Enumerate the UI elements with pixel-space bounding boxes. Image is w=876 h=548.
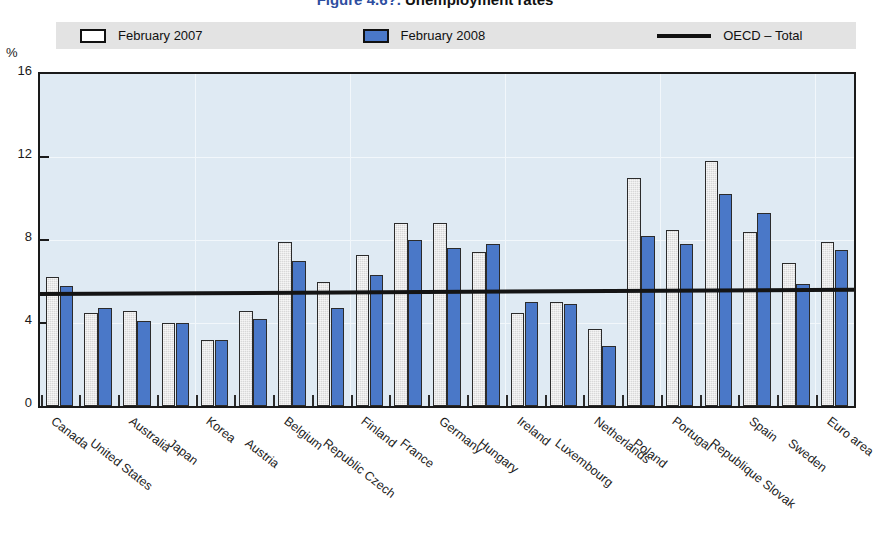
bar-february-2008 bbox=[680, 244, 694, 406]
bar-february-2008 bbox=[719, 194, 733, 406]
gridline-vertical bbox=[195, 74, 196, 406]
bar-february-2008 bbox=[370, 275, 384, 406]
legend-label: February 2007 bbox=[118, 28, 203, 43]
bar-february-2008 bbox=[292, 261, 306, 406]
plot-area bbox=[38, 72, 856, 408]
x-axis-label-2: Australia bbox=[126, 414, 173, 455]
bar-february-2007 bbox=[511, 313, 525, 406]
bar-february-2007 bbox=[743, 232, 757, 406]
bar-february-2007 bbox=[239, 311, 253, 406]
legend-swatch-blue bbox=[363, 29, 389, 43]
y-axis-tick bbox=[40, 156, 49, 158]
bar-february-2007 bbox=[782, 263, 796, 406]
gridline-vertical bbox=[505, 74, 506, 406]
x-axis-label-1: United States bbox=[88, 436, 156, 493]
x-axis-tick bbox=[700, 395, 702, 406]
x-axis-tick bbox=[738, 395, 740, 406]
figure-title-text: Unemployment rates bbox=[405, 0, 553, 8]
x-axis-label-20: Euro area bbox=[824, 414, 876, 459]
bar-february-2007 bbox=[588, 329, 602, 406]
bar-february-2007 bbox=[162, 323, 176, 406]
x-axis-tick bbox=[118, 395, 120, 406]
y-axis-tick-label: 8 bbox=[2, 229, 32, 244]
x-axis-tick bbox=[234, 395, 236, 406]
x-axis-label-13: Luxembourg bbox=[553, 436, 616, 490]
y-axis-tick-label: 0 bbox=[2, 395, 32, 410]
gridline-vertical bbox=[350, 74, 351, 406]
x-axis-label-8: Finland bbox=[359, 414, 400, 450]
legend-label: OECD – Total bbox=[723, 28, 802, 43]
x-axis-label-4: Korea bbox=[204, 414, 239, 446]
bar-february-2007 bbox=[84, 313, 98, 406]
bar-february-2008 bbox=[447, 248, 461, 406]
figure-number: Figure 4.6?. bbox=[317, 0, 401, 8]
x-axis-label-10: Germany bbox=[436, 414, 485, 457]
bar-february-2008 bbox=[757, 213, 771, 406]
gridline-horizontal bbox=[40, 157, 854, 158]
legend-swatch-white bbox=[80, 29, 106, 43]
x-axis-tick bbox=[661, 395, 663, 406]
bar-february-2008 bbox=[137, 321, 151, 406]
x-axis-tick bbox=[79, 395, 81, 406]
bar-february-2008 bbox=[486, 244, 500, 406]
x-axis-tick bbox=[389, 395, 391, 406]
x-axis-tick bbox=[351, 395, 353, 406]
x-axis-label-9: France bbox=[398, 436, 437, 471]
legend-line-marker bbox=[657, 34, 711, 38]
bar-february-2008 bbox=[641, 236, 655, 406]
x-axis-tick bbox=[312, 395, 314, 406]
y-axis-tick-label: 4 bbox=[2, 312, 32, 327]
bar-february-2007 bbox=[317, 282, 331, 407]
bar-february-2007 bbox=[46, 277, 60, 406]
x-axis-tick bbox=[428, 395, 430, 406]
bar-february-2008 bbox=[602, 346, 616, 406]
x-axis-tick bbox=[273, 395, 275, 406]
bar-february-2008 bbox=[253, 319, 267, 406]
x-axis-tick bbox=[41, 395, 43, 406]
x-axis-tick bbox=[816, 395, 818, 406]
legend-label: February 2008 bbox=[401, 28, 486, 43]
x-axis-label-11: Hungary bbox=[475, 436, 521, 476]
chart-legend: February 2007February 2008OECD – Total bbox=[56, 22, 856, 49]
x-axis-label-12: Ireland bbox=[514, 414, 553, 449]
x-axis-label-5: Austria bbox=[243, 436, 282, 471]
bar-february-2008 bbox=[835, 250, 849, 406]
x-axis-labels: CanadaUnited StatesAustraliaJapanKoreaAu… bbox=[38, 408, 856, 548]
bar-february-2008 bbox=[98, 308, 112, 406]
x-axis-tick bbox=[545, 395, 547, 406]
bar-february-2007 bbox=[550, 302, 564, 406]
x-axis-tick bbox=[777, 395, 779, 406]
bar-february-2007 bbox=[472, 252, 486, 406]
legend-item-1: February 2008 bbox=[363, 28, 486, 43]
bar-february-2007 bbox=[666, 230, 680, 406]
bar-february-2008 bbox=[796, 284, 810, 406]
bar-february-2008 bbox=[331, 308, 345, 406]
x-axis-tick bbox=[583, 395, 585, 406]
x-axis-tick bbox=[196, 395, 198, 406]
figure-title: Figure 4.6?. Unemployment rates bbox=[0, 0, 870, 8]
bar-february-2008 bbox=[176, 323, 190, 406]
gridline-vertical bbox=[660, 74, 661, 406]
bar-february-2007 bbox=[278, 242, 292, 406]
x-axis-label-0: Canada bbox=[49, 414, 92, 452]
bar-february-2008 bbox=[564, 304, 578, 406]
bar-february-2007 bbox=[123, 311, 137, 406]
bar-february-2008 bbox=[215, 340, 229, 406]
x-axis-label-6: Belgium bbox=[281, 414, 325, 453]
bar-february-2007 bbox=[705, 161, 719, 406]
y-axis-tick-label: 12 bbox=[2, 146, 32, 161]
y-axis-unit-label: % bbox=[6, 45, 18, 60]
gridline-vertical bbox=[815, 74, 816, 406]
legend-item-0: February 2007 bbox=[80, 28, 203, 43]
x-axis-label-3: Japan bbox=[165, 436, 200, 468]
x-axis-tick bbox=[506, 395, 508, 406]
bar-february-2007 bbox=[433, 223, 447, 406]
y-axis-tick-label: 16 bbox=[2, 63, 32, 78]
bar-february-2007 bbox=[821, 242, 835, 406]
legend-item-2: OECD – Total bbox=[657, 28, 802, 43]
bar-february-2007 bbox=[201, 340, 215, 406]
x-axis-tick bbox=[622, 395, 624, 406]
bar-february-2008 bbox=[60, 286, 74, 406]
bar-february-2008 bbox=[525, 302, 539, 406]
x-axis-tick bbox=[157, 395, 159, 406]
